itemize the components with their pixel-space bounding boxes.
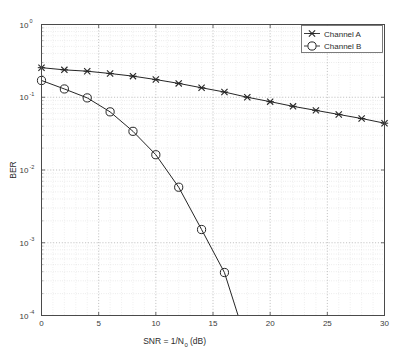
x-tick-label: 20: [266, 319, 275, 328]
y-axis-label: BER: [8, 161, 18, 178]
x-tick-label: 25: [323, 319, 332, 328]
x-axis-label-main: SNR = 1/N: [143, 336, 184, 346]
y-tick-label-exponent: 0: [30, 18, 33, 24]
x-tick-label: 15: [209, 319, 218, 328]
x-tick-label: 5: [96, 319, 101, 328]
y-tick-label-mantissa: 10: [20, 312, 29, 321]
y-tick-label-mantissa: 10: [20, 166, 29, 175]
y-tick-label-mantissa: 10: [20, 239, 29, 248]
x-axis-label-group: SNR = 1/N 0 (dB): [143, 336, 206, 348]
legend[interactable]: Channel AChannel B: [302, 26, 383, 53]
y-tick-label-exponent: -3: [30, 236, 35, 242]
x-axis-label-units: (dB): [190, 336, 206, 346]
y-tick-label-exponent: -4: [30, 309, 35, 315]
legend-label: Channel B: [324, 42, 361, 51]
y-tick-label-exponent: -1: [30, 91, 35, 97]
x-tick-label: 10: [151, 319, 160, 328]
figure-canvas: 051015202530 10010-110-210-310-4 BER SNR…: [0, 0, 402, 355]
ber-vs-snr-chart: 051015202530 10010-110-210-310-4 BER SNR…: [0, 0, 402, 355]
x-tick-label: 30: [380, 319, 389, 328]
x-tick-label: 0: [39, 319, 44, 328]
legend-label: Channel A: [324, 30, 362, 39]
y-tick-label-mantissa: 10: [20, 21, 29, 30]
y-tick-label-exponent: -2: [30, 164, 35, 170]
y-tick-label-mantissa: 10: [20, 93, 29, 102]
y-axis-label-group: BER: [8, 161, 18, 178]
